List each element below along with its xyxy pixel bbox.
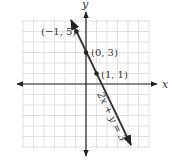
y-axis-label: y — [81, 0, 89, 11]
point-label-neg1-5: (−1, 5) — [41, 26, 76, 37]
point-label-1-1: (1, 1) — [101, 69, 128, 80]
point-label-0-3: (0, 3) — [91, 47, 118, 58]
x-axis-label: x — [162, 78, 169, 91]
point-0-3 — [84, 50, 88, 54]
point-1-1 — [94, 71, 98, 75]
equation-label: 2x + y = 3 — [95, 89, 129, 143]
coordinate-graph: y x (−1, 5) (0, 3) (1, 1) 2x + y = 3 — [0, 0, 181, 163]
